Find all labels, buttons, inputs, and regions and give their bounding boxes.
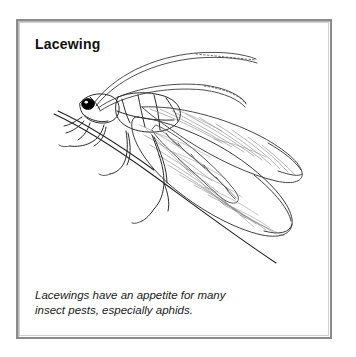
lacewing-info-card: Lacewing <box>16 19 332 339</box>
figure-caption: Lacewings have an appetite for many inse… <box>35 288 305 318</box>
lacewing-illustration <box>18 51 330 281</box>
hindwing-venation <box>150 107 295 175</box>
screenshot-root: Lacewing <box>0 0 356 357</box>
eye <box>82 98 95 109</box>
page-title: Lacewing <box>35 36 100 52</box>
caption-line-2: insect pests, especially aphids. <box>35 303 305 318</box>
caption-line-1: Lacewings have an appetite for many <box>35 288 305 303</box>
lacewing-drawing-svg <box>18 51 330 281</box>
